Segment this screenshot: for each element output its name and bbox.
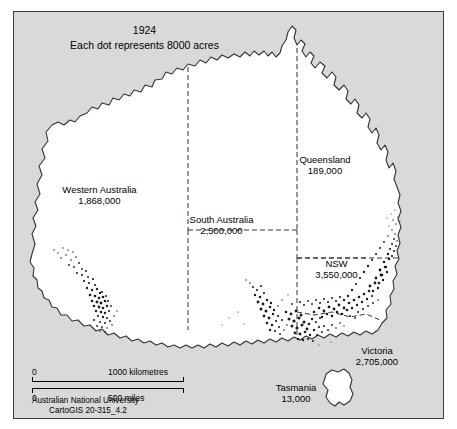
australia-map-graphic (14, 12, 443, 418)
map-year: 1924 (42, 24, 247, 36)
scale-km-max: 1000 kilometres (108, 367, 168, 377)
map-figure: 1924 Each dot represents 8000 acres West… (0, 0, 457, 429)
map-dot-legend: Each dot represents 8000 acres (42, 39, 247, 51)
map-title-block: 1924 Each dot represents 8000 acres (42, 24, 247, 51)
landmass-group (30, 26, 401, 406)
credit-organisation: Australian National University (32, 396, 139, 406)
scale-km-bar (32, 377, 184, 382)
mainland-australia-shape (30, 26, 401, 348)
credit-block: Australian National University CartoGIS … (32, 396, 139, 417)
scale-km-zero: 0 (32, 367, 37, 377)
map-frame: 1924 Each dot represents 8000 acres West… (13, 11, 444, 419)
credit-code: CartoGIS 20-315_4.2 (32, 406, 139, 416)
scale-kilometres: 0 1000 kilometres (32, 366, 232, 388)
tasmania-shape (323, 369, 353, 406)
